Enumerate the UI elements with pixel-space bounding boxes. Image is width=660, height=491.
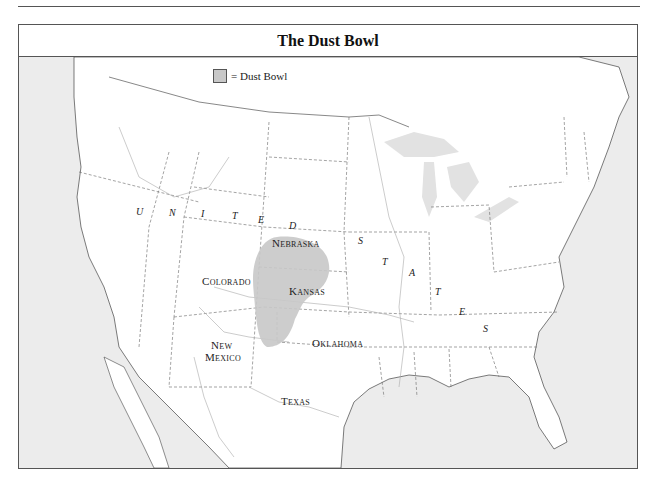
country-letter-s: S [358,235,363,246]
country-letter-e: E [258,214,264,225]
label-oklahoma: Oklahoma [312,338,363,349]
title-bar: The Dust Bowl [19,25,637,57]
country-letter-u: U [136,206,143,217]
label-new-mexico-line1: New [211,340,232,351]
country-letter-n: N [169,207,176,218]
country-letter-i: I [201,208,204,219]
label-kansas: Kansas [289,286,325,297]
label-new-mexico-line2: Mexico [205,352,241,363]
label-texas: Texas [281,396,310,407]
country-letter-t: T [232,210,238,221]
country-letter-t3: T [435,286,441,297]
top-rule [18,6,640,7]
legend-label: = Dust Bowl [231,70,287,82]
label-nebraska: Nebraska [272,238,320,249]
country-letter-s2: S [483,323,488,334]
country-letter-a: A [409,267,415,278]
country-letter-d: D [289,220,296,231]
map-frame: The Dust Bowl [18,24,638,469]
legend: = Dust Bowl [213,69,287,83]
country-letter-e2: E [459,306,465,317]
country-letter-t2: T [382,256,388,267]
label-colorado: Colorado [202,276,251,287]
us-map-graphic [19,57,637,468]
legend-swatch [213,69,227,83]
map-area: = Dust Bowl Nebraska Colorado Kansas New… [19,57,637,468]
map-title: The Dust Bowl [277,32,378,50]
